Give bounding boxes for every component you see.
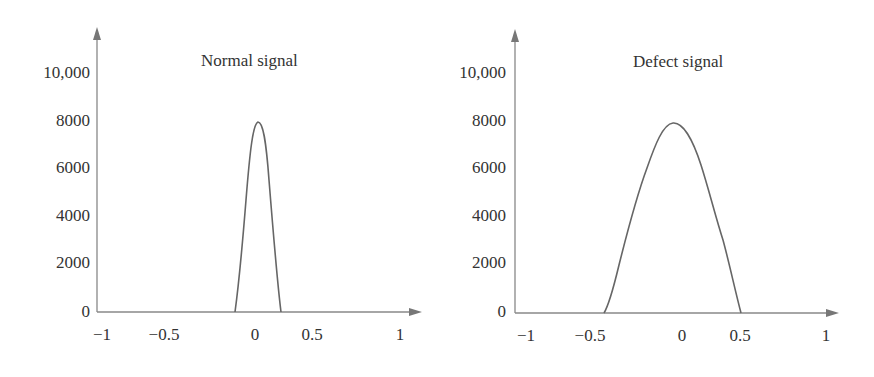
chart-title: Defect signal: [633, 53, 723, 70]
x-axis-arrow-icon: [409, 308, 422, 316]
x-axis-arrow-icon: [826, 309, 839, 317]
chart-title: Normal signal: [201, 52, 298, 69]
x-tick-label: −0.5: [149, 326, 180, 343]
y-tick-label: 2000: [436, 254, 506, 271]
y-tick-label: 6000: [20, 159, 90, 176]
y-tick-label: 4000: [20, 207, 90, 224]
y-tick-label: 0: [436, 303, 506, 320]
defect-signal-curve: [604, 123, 741, 313]
y-tick-label: 8000: [20, 112, 90, 129]
y-tick-label: 0: [20, 303, 90, 320]
x-tick-label: 0.5: [729, 327, 750, 344]
defect-signal-chart: Defect signal 10,000 8000 6000 4000 2000…: [437, 0, 874, 377]
x-tick-label: 0: [251, 326, 260, 343]
x-tick-label: −1: [517, 327, 535, 344]
y-tick-label: 8000: [436, 112, 506, 129]
y-tick-label: 10,000: [20, 64, 90, 81]
y-axis-arrow-icon: [93, 27, 101, 40]
y-tick-label: 4000: [436, 207, 506, 224]
y-tick-label: 6000: [436, 159, 506, 176]
y-tick-label: 2000: [20, 254, 90, 271]
normal-signal-chart: Normal signal 10,000 8000 6000 4000 2000…: [0, 0, 437, 377]
x-tick-label: −0.5: [575, 327, 606, 344]
x-tick-label: 1: [396, 326, 405, 343]
y-tick-label: 10,000: [436, 64, 506, 81]
y-axis-arrow-icon: [511, 29, 519, 42]
x-tick-label: 0.5: [301, 326, 322, 343]
normal-signal-curve: [235, 122, 281, 312]
x-tick-label: 0: [678, 327, 687, 344]
x-tick-label: −1: [93, 326, 111, 343]
x-tick-label: 1: [822, 327, 831, 344]
